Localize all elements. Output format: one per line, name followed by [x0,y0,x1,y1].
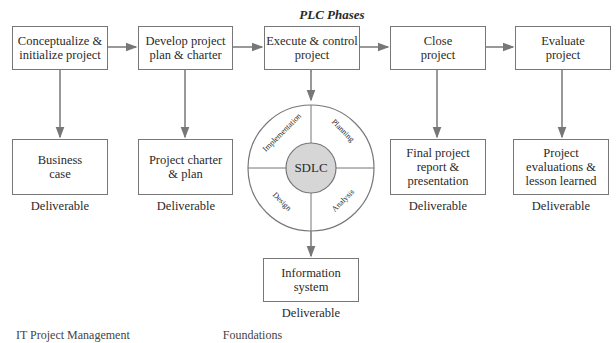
footer-text: Foundations [223,328,282,343]
footer-text: IT Project Management [16,328,130,343]
deliverable-text: Project [543,146,578,160]
deliverable-label: Deliverable [378,199,498,214]
phase-conceptualize: Conceptualize & initialize project [12,26,108,70]
phase-label: Execute & control [266,34,358,48]
deliverable-text: system [294,280,329,294]
phase-label: Develop project [145,34,225,48]
phase-label: plan & charter [149,48,221,62]
deliverable-text: presentation [407,174,468,188]
deliverable-label: Deliverable [126,199,246,214]
deliverable-business-case: Business case [12,139,108,195]
phase-label: project [295,48,330,62]
phase-label: initialize project [19,48,101,62]
deliverable-text: Information [281,266,341,280]
deliverable-text: evaluations & [526,160,596,174]
deliverable-text: lesson learned [525,174,596,188]
deliverable-final-report: Final project report & presentation [390,139,486,195]
phase-develop-plan: Develop project plan & charter [138,26,233,70]
phase-label: Close [424,34,452,48]
deliverable-label: Deliverable [251,306,371,321]
phase-execute-control: Execute & control project [264,26,360,70]
deliverable-label: Deliverable [0,199,120,214]
deliverable-text: Project charter [149,153,222,167]
deliverable-text: report & [417,160,460,174]
phase-label: project [421,48,456,62]
phase-label: Conceptualize & [18,34,102,48]
deliverable-charter-plan: Project charter & plan [138,139,233,195]
deliverable-text: Final project [406,146,470,160]
deliverable-label: Deliverable [501,199,616,214]
footer-caption: IT Project Management Foundations [16,328,372,343]
deliverable-text: Business [38,153,82,167]
deliverable-text: & plan [168,167,202,181]
deliverable-project-evaluations: Project evaluations & lesson learned [513,139,609,195]
deliverable-information-system: Information system [263,258,359,302]
phase-close: Close project [390,26,486,70]
deliverable-text: case [49,167,71,181]
phase-label: project [546,48,581,62]
phase-evaluate: Evaluate project [515,26,611,70]
sdlc-center-label: SDLC [286,160,336,176]
diagram-title: PLC Phases [282,7,382,23]
phase-label: Evaluate [541,34,585,48]
